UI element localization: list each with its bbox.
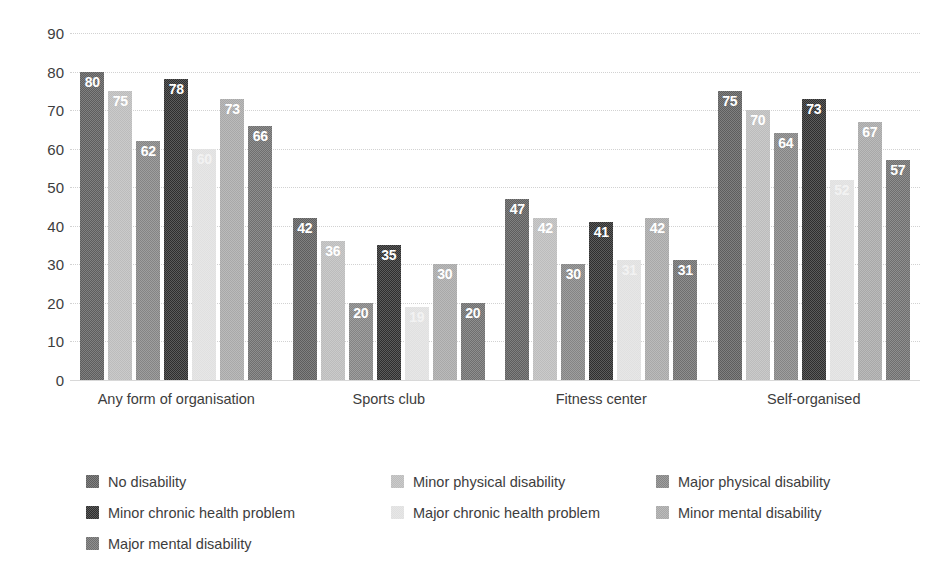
legend-swatch-icon	[391, 506, 404, 519]
legend-swatch-icon	[391, 475, 404, 488]
bar-group: 42362035193020	[293, 33, 485, 380]
bar-value-label: 64	[774, 136, 798, 150]
bar: 67	[858, 122, 882, 380]
bar-value-label: 75	[718, 94, 742, 108]
legend-swatch-icon	[86, 506, 99, 519]
bar-value-label: 20	[461, 306, 485, 320]
y-axis-tick-label: 80	[4, 63, 64, 80]
bar-value-label: 19	[405, 310, 429, 324]
bar-value-label: 47	[505, 202, 529, 216]
bar-value-label: 57	[886, 163, 910, 177]
bar-value-label: 41	[589, 225, 613, 239]
bar-value-label: 60	[192, 152, 216, 166]
bar-value-label: 67	[858, 125, 882, 139]
bar: 73	[220, 99, 244, 380]
bar-group: 75706473526757	[718, 33, 910, 380]
bar: 80	[80, 72, 104, 380]
legend-swatch-icon	[656, 475, 669, 488]
y-axis-tick-label: 40	[4, 217, 64, 234]
y-axis-tick-label: 70	[4, 102, 64, 119]
category-label: Fitness center	[495, 391, 708, 407]
y-axis-tick-label: 60	[4, 140, 64, 157]
bar-value-label: 31	[673, 263, 697, 277]
bar-value-label: 70	[746, 113, 770, 127]
bar-value-label: 36	[321, 244, 345, 258]
legend-item[interactable]: Major mental disability	[86, 536, 391, 552]
bar: 70	[746, 110, 770, 380]
legend-swatch-icon	[86, 475, 99, 488]
bar: 41	[589, 222, 613, 380]
bar: 60	[192, 149, 216, 380]
bar: 42	[645, 218, 669, 380]
bar: 52	[830, 180, 854, 380]
bar: 42	[533, 218, 557, 380]
legend-label: Major chronic health problem	[413, 505, 600, 521]
bar-value-label: 20	[349, 306, 373, 320]
bar-value-label: 42	[533, 221, 557, 235]
bar: 75	[108, 91, 132, 380]
legend-label: Major physical disability	[678, 474, 830, 490]
bar-value-label: 75	[108, 94, 132, 108]
category-label: Self-organised	[708, 391, 921, 407]
bar-value-label: 73	[220, 102, 244, 116]
legend-item[interactable]: Minor physical disability	[391, 474, 656, 490]
category-label: Sports club	[283, 391, 496, 407]
y-axis-tick-label: 90	[4, 25, 64, 42]
legend-item[interactable]: Minor chronic health problem	[86, 505, 391, 521]
legend-swatch-icon	[86, 537, 99, 550]
bar-value-label: 73	[802, 102, 826, 116]
bar-group: 80756278607366	[80, 33, 272, 380]
bar-value-label: 30	[561, 267, 585, 281]
bar: 19	[405, 307, 429, 380]
bar: 47	[505, 199, 529, 380]
bar: 78	[164, 79, 188, 380]
bar: 62	[136, 141, 160, 380]
y-axis-tick-label: 20	[4, 294, 64, 311]
category-label: Any form of organisation	[70, 391, 283, 407]
bar-value-label: 42	[293, 221, 317, 235]
legend-item[interactable]: Minor mental disability	[656, 505, 886, 521]
bar: 20	[461, 303, 485, 380]
legend-item[interactable]: No disability	[86, 474, 391, 490]
bar: 30	[561, 264, 585, 380]
bar: 75	[718, 91, 742, 380]
bar: 42	[293, 218, 317, 380]
bar-value-label: 35	[377, 248, 401, 262]
bar-value-label: 62	[136, 144, 160, 158]
bar-value-label: 66	[248, 129, 272, 143]
bar: 36	[321, 241, 345, 380]
y-axis-tick-label: 0	[4, 372, 64, 389]
bar: 73	[802, 99, 826, 380]
plot-area: 8075627860736642362035193020474230413142…	[70, 33, 920, 380]
gridline-0	[70, 380, 920, 381]
legend-label: Minor physical disability	[413, 474, 565, 490]
bar-group: 47423041314231	[505, 33, 697, 380]
bar-value-label: 52	[830, 183, 854, 197]
bar-chart: 8075627860736642362035193020474230413142…	[0, 0, 946, 568]
chart-legend: No disabilityMinor physical disabilityMa…	[86, 466, 886, 559]
y-axis-tick-label: 10	[4, 333, 64, 350]
legend-label: Minor chronic health problem	[108, 505, 295, 521]
legend-swatch-icon	[656, 506, 669, 519]
bar-value-label: 31	[617, 263, 641, 277]
legend-item[interactable]: Major physical disability	[656, 474, 886, 490]
bar: 66	[248, 126, 272, 380]
bar: 20	[349, 303, 373, 380]
bar-value-label: 42	[645, 221, 669, 235]
legend-label: Minor mental disability	[678, 505, 821, 521]
bar: 31	[673, 260, 697, 380]
bar: 64	[774, 133, 798, 380]
bar: 31	[617, 260, 641, 380]
legend-label: Major mental disability	[108, 536, 251, 552]
bar-value-label: 78	[164, 82, 188, 96]
bar: 30	[433, 264, 457, 380]
bar-value-label: 30	[433, 267, 457, 281]
bar: 57	[886, 160, 910, 380]
bar-value-label: 80	[80, 75, 104, 89]
y-axis-tick-label: 30	[4, 256, 64, 273]
legend-label: No disability	[108, 474, 186, 490]
legend-item[interactable]: Major chronic health problem	[391, 505, 656, 521]
bar: 35	[377, 245, 401, 380]
y-axis-tick-label: 50	[4, 179, 64, 196]
